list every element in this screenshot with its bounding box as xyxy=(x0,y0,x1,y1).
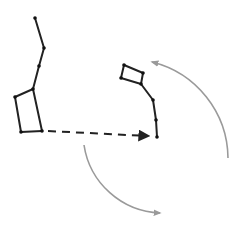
pointer-dashed-line xyxy=(48,131,148,136)
little-dipper-star-icon xyxy=(119,76,123,80)
big-dipper-line xyxy=(35,18,44,48)
little-dipper-star-icon xyxy=(141,71,145,75)
big-dipper-constellation xyxy=(13,16,46,134)
big-dipper-star-icon xyxy=(13,95,17,99)
big-dipper-star-icon xyxy=(31,87,35,91)
little-dipper-star-icon xyxy=(154,118,158,122)
little-dipper-line xyxy=(121,78,141,84)
big-dipper-line xyxy=(33,66,39,89)
big-dipper-line xyxy=(39,48,44,66)
little-dipper-constellation xyxy=(119,63,159,139)
little-dipper-star-icon xyxy=(155,135,159,139)
big-dipper-line xyxy=(15,89,33,97)
little-dipper-line xyxy=(141,84,153,100)
big-dipper-line xyxy=(21,131,42,132)
little-dipper-line xyxy=(121,65,124,78)
little-dipper-star-icon xyxy=(122,63,126,67)
pointer-arrow xyxy=(48,131,148,136)
upper-right-arc-arrow-icon xyxy=(152,62,228,158)
big-dipper-star-icon xyxy=(40,129,44,133)
big-dipper-line xyxy=(33,89,42,131)
little-dipper-star-icon xyxy=(151,98,155,102)
little-dipper-line xyxy=(156,120,157,137)
big-dipper-star-icon xyxy=(19,130,23,134)
polaris-diagram xyxy=(0,0,241,233)
big-dipper-star-icon xyxy=(33,16,37,20)
little-dipper-star-icon xyxy=(139,82,143,86)
big-dipper-star-icon xyxy=(42,46,46,50)
lower-left-arc-arrow-icon xyxy=(84,145,160,213)
big-dipper-star-icon xyxy=(37,64,41,68)
little-dipper-line xyxy=(124,65,143,73)
little-dipper-line xyxy=(153,100,156,120)
big-dipper-line xyxy=(15,97,21,132)
